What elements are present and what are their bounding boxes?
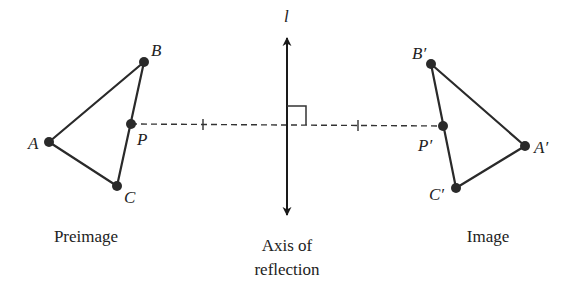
axis-caption-line2: reflection <box>254 260 320 279</box>
reflection-diagram: l Axis of reflection A B C P Preimage A′… <box>0 0 578 292</box>
point-b-prime-dot <box>426 59 436 69</box>
image-triangle: A′ B′ C′ P′ Image <box>412 44 548 246</box>
point-p-prime-label: P′ <box>417 136 432 155</box>
point-a-dot <box>44 137 54 147</box>
preimage-triangle: A B C P Preimage <box>27 41 162 246</box>
point-p-prime-dot <box>438 121 448 131</box>
point-c-prime-dot <box>451 183 461 193</box>
point-p-dot <box>126 119 136 129</box>
point-a-prime-label: A′ <box>533 138 548 157</box>
axis-label: l <box>284 7 289 26</box>
point-b-prime-label: B′ <box>412 44 426 63</box>
point-a-prime-dot <box>520 141 530 151</box>
point-b-dot <box>139 57 149 67</box>
point-b-label: B <box>151 41 162 60</box>
point-a-label: A <box>27 134 39 153</box>
point-c-dot <box>112 181 122 191</box>
point-c-prime-label: C′ <box>429 185 444 204</box>
axis-caption-line1: Axis of <box>262 236 313 255</box>
axis-of-reflection: l Axis of reflection <box>254 7 320 279</box>
point-p-label: P <box>136 130 147 149</box>
preimage-caption: Preimage <box>54 227 118 246</box>
right-angle-icon <box>287 106 306 125</box>
image-caption: Image <box>467 227 509 246</box>
point-c-label: C <box>124 188 136 207</box>
